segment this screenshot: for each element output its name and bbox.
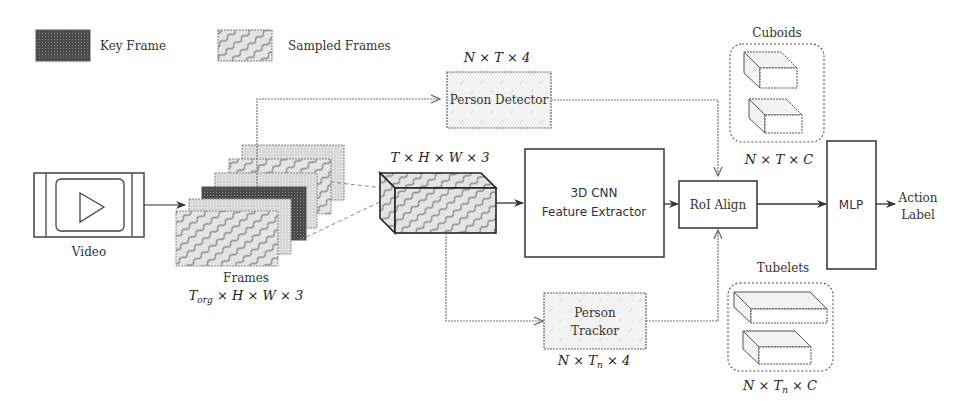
cnn-node: 3D CNN Feature Extractor — [525, 149, 664, 257]
action-label-line1: Action — [898, 191, 938, 205]
person-tracker-line2: Trackor — [571, 324, 619, 338]
cnn-label-line2: Feature Extractor — [542, 205, 646, 219]
diagram-canvas: Key Frame Sampled Frames Video Frames To… — [0, 0, 970, 413]
action-label-line2: Label — [901, 208, 935, 222]
legend-sampled-frames: Sampled Frames — [288, 39, 391, 53]
tubelets-shape: N × Tn × C — [742, 378, 817, 395]
cnn-box — [525, 149, 664, 257]
person-detector-node: N × T × 4 Person Detector — [447, 50, 551, 128]
cuboids-label: Cuboids — [752, 26, 802, 40]
person-tracker-box — [544, 293, 646, 349]
legend: Key Frame Sampled Frames — [36, 30, 391, 61]
person-tracker-node: Person Trackor N × Tn × 4 — [544, 293, 646, 370]
sampled-frames-swatch-icon — [218, 30, 272, 61]
mlp-label: MLP — [839, 198, 863, 212]
clip-cuboid: T × H × W × 3 — [380, 150, 496, 233]
cuboid-icon — [744, 52, 797, 88]
cuboids-shape: N × T × C — [744, 152, 813, 167]
cnn-label-line1: 3D CNN — [570, 186, 617, 200]
cuboids-group: Cuboids N × T × C — [730, 26, 824, 167]
roi-align-label: RoI Align — [690, 198, 747, 212]
clip-shape: T × H × W × 3 — [390, 150, 489, 165]
frames-stack: Frames Torg × H × W × 3 — [176, 145, 344, 305]
frames-label: Frames — [223, 271, 269, 285]
tubelet-icon — [734, 292, 827, 323]
video-node: Video — [34, 173, 144, 259]
frames-shape: Torg × H × W × 3 — [189, 288, 304, 305]
key-frame-swatch-icon — [36, 30, 90, 61]
person-tracker-shape: N × Tn × 4 — [557, 353, 630, 370]
cuboid-icon — [749, 99, 802, 133]
legend-key-frame: Key Frame — [100, 39, 166, 53]
video-label: Video — [71, 245, 106, 259]
person-detector-shape: N × T × 4 — [463, 50, 531, 65]
roi-align-node: RoI Align — [679, 181, 757, 228]
person-detector-label: Person Detector — [450, 93, 549, 107]
person-tracker-line1: Person — [574, 306, 616, 320]
tubelets-group: Tubelets N × Tn × C — [728, 261, 833, 395]
tubelet-icon — [743, 331, 811, 364]
tubelets-label: Tubelets — [757, 261, 809, 275]
mlp-node: MLP — [827, 141, 876, 269]
